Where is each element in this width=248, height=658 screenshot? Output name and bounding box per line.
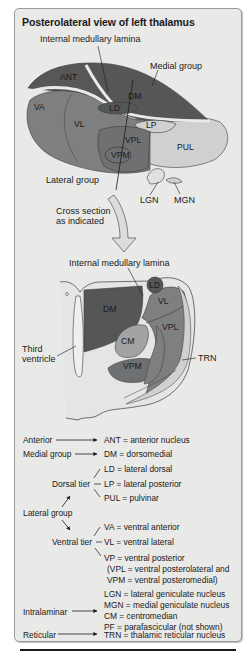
- cross-section: Internal medullary lamina Third ventricl…: [22, 258, 217, 420]
- cs-vpm-label: VPM: [123, 361, 142, 371]
- vpm-label: VPM: [111, 150, 130, 160]
- legend-group-anterior: Anterior: [23, 435, 52, 445]
- internal-medullary-lamina-label: Internal medullary lamina: [40, 34, 141, 44]
- lp-label: LP: [146, 120, 157, 130]
- section-arrow: Cross section as indicated: [56, 195, 136, 252]
- legend-entry-vpl: (VPL = ventral posterolateral and: [107, 564, 229, 574]
- cs-vl-label: VL: [158, 296, 169, 306]
- cross-section-caption-line1: Cross section: [56, 206, 111, 216]
- cross-section-caption-line2: as indicated: [56, 216, 104, 226]
- cs-vpl-label: VPL: [162, 322, 178, 332]
- legend-entry-vl: VL = ventral lateral: [104, 537, 174, 547]
- third-ventricle: [73, 296, 83, 377]
- third-ventricle-label-line1: Third: [22, 344, 43, 354]
- trn-label: TRN: [198, 353, 217, 363]
- legend-entry-pul: PUL = pulvinar: [104, 493, 159, 503]
- legend-group-medial: Medial group: [23, 449, 71, 459]
- legend-entry-trn: TRN = thalamic reticular nucleus: [104, 630, 225, 640]
- legend-entry-mgn: MGN = medial geniculate nucleus: [104, 600, 229, 610]
- lgn-label: LGN: [140, 195, 159, 205]
- third-ventricle-label-line2: ventricle: [22, 354, 56, 364]
- legend-entry-ld: LD = lateral dorsal: [104, 464, 172, 474]
- lateral-group-label: Lateral group: [46, 175, 99, 185]
- legend-entry-va: VA = ventral anterior: [104, 522, 180, 532]
- legend-entry-dm: DM = dorsomedial: [104, 449, 172, 459]
- lgn-nucleus: [147, 169, 164, 184]
- legend-lateral-group: Lateral group: [23, 508, 72, 518]
- ld-label: LD: [109, 103, 120, 113]
- vpl-label: VPL: [125, 135, 141, 145]
- va-label: VA: [34, 102, 45, 112]
- top-view: Internal medullary lamina Medial group L…: [27, 34, 228, 205]
- vl-label: VL: [74, 119, 85, 129]
- legend-entry-lp: LP = lateral posterior: [104, 479, 181, 489]
- cs-dm-label: DM: [103, 304, 116, 314]
- legend-ventral-tier: Ventral tier: [52, 537, 92, 547]
- legend-group-reticular: Reticular: [23, 630, 56, 640]
- legend-entry-lgn: LGN = lateral geniculate nucleus: [104, 589, 225, 599]
- pul-label: PUL: [177, 142, 194, 152]
- legend-entry-vpm: VPM = ventral posteromedial): [107, 575, 218, 585]
- dm-label: DM: [128, 91, 141, 101]
- legend-group-intralaminar: Intralaminar: [23, 607, 67, 617]
- ant-label: ANT: [60, 72, 78, 82]
- legend-dorsal-tier: Dorsal tier: [52, 479, 90, 489]
- legend-entry-ant: ANT = anterior nucleus: [104, 435, 190, 445]
- legend-entry-cm: CM = centromedian: [104, 611, 177, 621]
- bottom-rule: [20, 649, 236, 651]
- medial-group-label: Medial group: [150, 61, 202, 71]
- cs-cm-label: CM: [121, 336, 134, 346]
- mgn-label: MGN: [174, 195, 195, 205]
- legend-entry-vp: VP = ventral posterior: [104, 553, 185, 563]
- cs-internal-medullary-lamina-label: Internal medullary lamina: [69, 258, 170, 268]
- cs-ld-label: LD: [149, 280, 160, 290]
